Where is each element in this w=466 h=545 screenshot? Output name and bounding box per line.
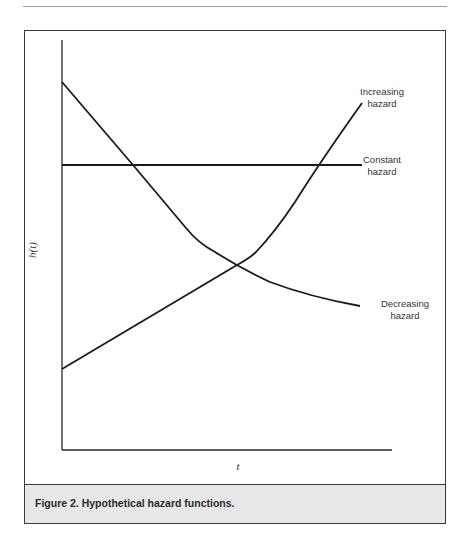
- y-axis-label: h(t): [26, 242, 39, 258]
- decreasing-label-2: hazard: [390, 310, 419, 321]
- constant-label-2: hazard: [367, 166, 396, 177]
- increasing-label-1: Increasing: [360, 86, 404, 97]
- increasing-hazard-line: [62, 103, 362, 369]
- constant-label-1: Constant: [363, 154, 401, 165]
- figure-caption: Figure 2. Hypothetical hazard functions.: [35, 497, 235, 509]
- decreasing-hazard-line: [62, 82, 360, 306]
- caption-band: Figure 2. Hypothetical hazard functions.: [24, 484, 446, 524]
- increasing-label-2: hazard: [367, 98, 396, 109]
- hazard-chart: Increasing hazard Constant hazard Decrea…: [0, 0, 466, 545]
- decreasing-label-1: Decreasing: [381, 298, 429, 309]
- x-axis-label: t: [236, 460, 240, 472]
